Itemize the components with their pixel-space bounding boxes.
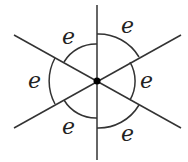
arc-right xyxy=(130,62,135,100)
label-left: e xyxy=(28,68,41,93)
label-bottom-left: e xyxy=(62,114,75,139)
label-top-right: e xyxy=(121,13,134,38)
arc-left xyxy=(49,58,55,104)
label-right: e xyxy=(140,68,153,93)
label-bottom-right: e xyxy=(121,121,134,146)
center-vertex xyxy=(94,78,101,85)
star-diagram: e e e e e e xyxy=(0,0,188,162)
label-top-left: e xyxy=(62,24,75,49)
